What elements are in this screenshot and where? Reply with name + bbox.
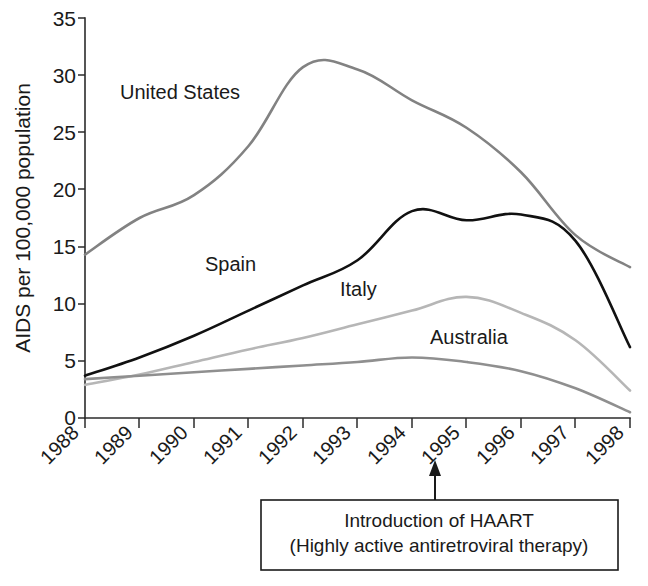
y-tick-label: 15 <box>53 235 76 258</box>
x-axis <box>85 418 630 428</box>
y-tick-labels: 35 30 25 20 15 10 5 0 <box>53 7 76 429</box>
y-tick-label: 30 <box>53 64 76 87</box>
y-axis <box>78 18 85 418</box>
haart-callout-line2: (Highly active antiretroviral therapy) <box>290 535 589 556</box>
y-tick-label: 5 <box>64 349 76 372</box>
aids-incidence-line-chart: AIDS per 100,000 population 35 30 25 20 … <box>0 0 648 586</box>
x-tick-label: 1990 <box>145 421 192 468</box>
x-tick-label: 1997 <box>526 421 573 468</box>
series-label-italy: Italy <box>340 278 377 300</box>
x-tick-label: 1989 <box>90 421 137 468</box>
y-tick-label: 35 <box>53 7 76 30</box>
x-tick-label: 1994 <box>363 421 410 468</box>
x-tick-labels: 1988 1989 1990 1991 1992 1993 1994 1995 … <box>36 421 628 468</box>
x-tick-label: 1998 <box>581 421 628 468</box>
x-tick-label: 1992 <box>254 421 301 468</box>
y-tick-label: 20 <box>53 178 76 201</box>
y-tick-label: 10 <box>53 292 76 315</box>
chart-canvas: AIDS per 100,000 population 35 30 25 20 … <box>0 0 648 586</box>
series-label-spain: Spain <box>205 253 256 275</box>
series-label-united-states: United States <box>120 81 240 103</box>
series-line-italy <box>85 297 630 391</box>
series-lines <box>85 60 630 412</box>
x-tick-label: 1993 <box>308 421 355 468</box>
series-line-australia <box>85 357 630 412</box>
y-tick-label: 25 <box>53 121 76 144</box>
haart-callout-line1: Introduction of HAART <box>344 510 534 531</box>
x-tick-label: 1996 <box>472 421 519 468</box>
y-axis-title: AIDS per 100,000 population <box>11 83 34 353</box>
x-tick-label: 1991 <box>199 421 246 468</box>
series-label-australia: Australia <box>430 326 509 348</box>
x-tick-label: 1995 <box>417 421 464 468</box>
